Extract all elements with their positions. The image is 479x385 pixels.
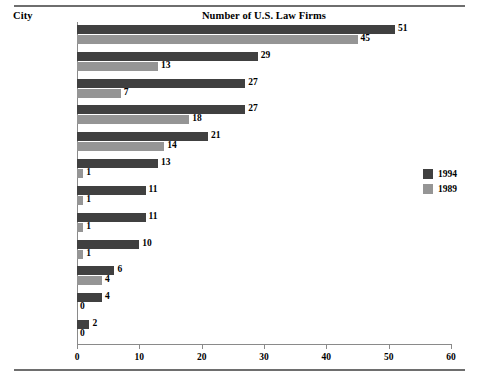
- legend-label-1989: 1989: [438, 184, 457, 194]
- x-tick-label: 20: [197, 352, 207, 362]
- legend-item-1989: 1989: [423, 182, 457, 195]
- bar-row: Hong Kong2913: [77, 49, 451, 76]
- bar-row: Paris2114: [77, 129, 451, 156]
- bar-value-1994-6: 11: [149, 185, 158, 194]
- x-tick-label: 0: [75, 352, 80, 362]
- legend-swatch-icon-1994: [423, 169, 433, 179]
- x-tick-label: 50: [384, 352, 394, 362]
- legend-item-1994: 1994: [423, 167, 457, 180]
- bar-1989-3: [77, 115, 189, 124]
- x-tick: [264, 344, 265, 349]
- x-tick-label: 40: [322, 352, 332, 362]
- bar-1989-9: [77, 276, 102, 285]
- bar-1989-1: [77, 62, 158, 71]
- bar-value-1994-5: 13: [161, 158, 171, 167]
- bar-value-1989-5: 1: [86, 168, 91, 177]
- bar-1989-8: [77, 250, 83, 259]
- bottom-divider: [14, 369, 465, 371]
- bar-row: Brussels277: [77, 76, 451, 103]
- bar-1989-7: [77, 223, 83, 232]
- bar-value-1989-11: 0: [80, 329, 85, 338]
- bar-value-1994-7: 11: [149, 212, 158, 221]
- bar-1989-4: [77, 142, 164, 151]
- bar-value-1989-7: 1: [86, 222, 91, 231]
- bar-row: Tokyo2718: [77, 103, 451, 130]
- x-tick: [326, 344, 327, 349]
- bar-1989-6: [77, 196, 83, 205]
- bar-value-1994-10: 4: [105, 292, 110, 301]
- x-tick: [451, 344, 452, 349]
- bar-value-1994-3: 27: [248, 104, 258, 113]
- bar-row: Jakarta40: [77, 290, 451, 317]
- bar-value-1994-4: 21: [211, 131, 221, 140]
- chart-container: City Number of U.S. Law Firms 0102030405…: [0, 0, 479, 385]
- x-tick-label: 10: [135, 352, 145, 362]
- x-tick: [77, 344, 78, 349]
- bar-value-1989-9: 4: [105, 275, 110, 284]
- bar-row: Beijing64: [77, 264, 451, 291]
- bar-1994-3: [77, 105, 245, 114]
- bar-value-1989-3: 18: [192, 114, 202, 123]
- bar-value-1989-4: 14: [167, 141, 177, 150]
- bar-value-1994-8: 10: [142, 239, 152, 248]
- bar-value-1989-8: 1: [86, 249, 91, 258]
- bar-value-1989-2: 7: [124, 88, 129, 97]
- bar-row: Budapest111: [77, 183, 451, 210]
- bar-1989-2: [77, 89, 121, 98]
- bar-row: Mexico City101: [77, 237, 451, 264]
- legend-label-1994: 1994: [438, 169, 457, 179]
- chart-title: Number of U.S. Law Firms: [77, 10, 451, 21]
- bar-value-1989-1: 13: [161, 61, 171, 70]
- bar-row: London5145: [77, 22, 451, 49]
- bar-1989-5: [77, 169, 83, 178]
- bar-value-1994-0: 51: [398, 24, 408, 33]
- bar-row: Hanoi20: [77, 317, 451, 344]
- legend-swatch-icon-1989: [423, 184, 433, 194]
- bar-1989-0: [77, 35, 358, 44]
- bar-row: Frankfurt111: [77, 210, 451, 237]
- x-tick-label: 60: [446, 352, 456, 362]
- x-tick: [202, 344, 203, 349]
- bar-value-1989-10: 0: [80, 302, 85, 311]
- bar-1994-4: [77, 132, 208, 141]
- top-divider: [14, 5, 465, 7]
- bar-value-1994-2: 27: [248, 78, 258, 87]
- bar-row: Moscow131: [77, 156, 451, 183]
- x-tick: [389, 344, 390, 349]
- x-tick-label: 30: [259, 352, 269, 362]
- bar-1994-0: [77, 25, 395, 34]
- bar-1994-2: [77, 79, 245, 88]
- chart-legend: 1994 1989: [423, 167, 457, 197]
- bar-value-1994-11: 2: [92, 319, 97, 328]
- bar-value-1994-1: 29: [261, 51, 271, 60]
- bar-value-1989-6: 1: [86, 195, 91, 204]
- bar-value-1989-0: 45: [361, 34, 371, 43]
- bar-value-1994-9: 6: [117, 265, 122, 274]
- x-tick: [139, 344, 140, 349]
- category-axis-header: City: [13, 10, 33, 21]
- plot-area: 0102030405060 London5145Hong Kong2913Bru…: [77, 22, 451, 344]
